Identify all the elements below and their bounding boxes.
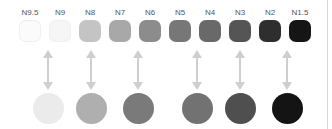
color-circle [123, 93, 154, 124]
color-swatch [259, 20, 281, 42]
color-swatch [199, 20, 221, 42]
double-arrow-icon [234, 50, 246, 90]
double-arrow-icon [191, 50, 203, 90]
swatch-label: N5 [165, 8, 195, 17]
double-arrow-icon [85, 50, 97, 90]
color-swatch [169, 20, 191, 42]
swatch-label: N9 [45, 8, 75, 17]
swatch-label: N9.5 [15, 8, 45, 17]
color-swatch [19, 20, 41, 42]
color-swatch [49, 20, 71, 42]
color-swatch [139, 20, 161, 42]
double-arrow-icon [132, 50, 144, 90]
swatch-label: N3 [225, 8, 255, 17]
color-circle [33, 93, 64, 124]
edge-divider [327, 0, 328, 129]
swatch-label: N6 [135, 8, 165, 17]
color-circle [182, 93, 213, 124]
color-swatch [109, 20, 131, 42]
color-circle [76, 93, 107, 124]
color-circle [272, 93, 303, 124]
swatch-label: N1.5 [285, 8, 315, 17]
double-arrow-icon [281, 50, 293, 90]
swatch-label: N2 [255, 8, 285, 17]
swatch-label: N7 [105, 8, 135, 17]
double-arrow-icon [42, 50, 54, 90]
swatch-label: N8 [75, 8, 105, 17]
color-circle [225, 93, 256, 124]
color-swatch [229, 20, 251, 42]
swatch-label: N4 [195, 8, 225, 17]
color-swatch [79, 20, 101, 42]
color-swatch [289, 20, 311, 42]
